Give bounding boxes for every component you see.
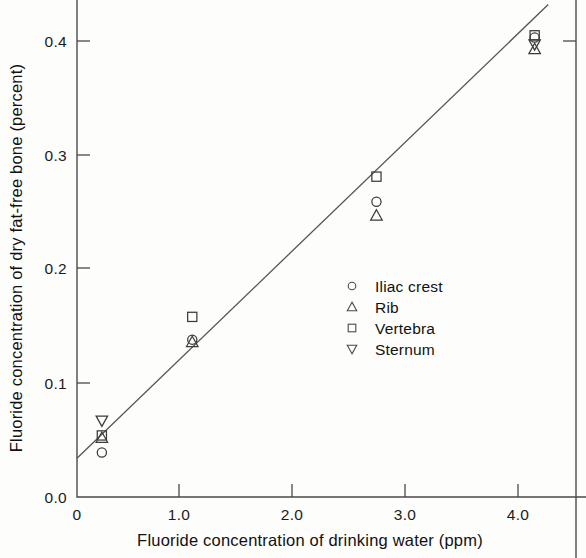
data-point (372, 197, 381, 206)
data-point (530, 33, 539, 42)
y-tick-label-0.0: 0.0 (45, 489, 68, 506)
axis-spines (77, 0, 586, 497)
legend-marker-triangle-up (347, 302, 357, 311)
y-tick-label-0.2: 0.2 (45, 260, 67, 277)
data-point (530, 31, 539, 40)
y-tick-label-0.1: 0.1 (45, 375, 67, 392)
y-tick-label-0.4: 0.4 (45, 33, 68, 50)
series-sternum (96, 40, 540, 427)
legend-label-vertebra: Vertebra (375, 320, 435, 337)
data-markers-layer (96, 31, 540, 457)
legend-label-sternum: Sternum (375, 341, 435, 358)
legend-label-rib: Rib (375, 299, 399, 316)
y-axis-ticks (77, 41, 576, 383)
x-tick-label-1.0: 1.0 (168, 506, 191, 523)
legend-marker-triangle-down (347, 345, 357, 354)
x-tick-label-0: 0 (73, 506, 82, 523)
data-point (188, 312, 197, 321)
legend-marker-square (348, 324, 356, 332)
axes-frame (77, 0, 586, 558)
series-vertebra (97, 31, 539, 440)
x-axis-title: Fluoride concentration of drinking water… (137, 531, 483, 549)
legend-label-iliac-crest: Iliac crest (375, 278, 443, 295)
data-point (96, 416, 108, 426)
data-point (97, 448, 106, 457)
chart-figure: 0.4 0.3 0.2 0.1 0.0 0 1.0 2.0 3.0 4.0 Fl… (0, 0, 586, 558)
data-point (529, 40, 541, 50)
x-tick-label-3.0: 3.0 (394, 506, 417, 523)
y-tick-label-0.3: 0.3 (45, 147, 67, 164)
regression-line (77, 5, 548, 459)
series-rib (96, 43, 540, 442)
series-iliac-crest (97, 33, 539, 457)
scatter-plot-canvas: 0.4 0.3 0.2 0.1 0.0 0 1.0 2.0 3.0 4.0 Fl… (0, 0, 586, 558)
y-axis-title: Fluoride concentration of dry fat-free b… (7, 64, 25, 452)
x-tick-label-4.0: 4.0 (507, 506, 530, 523)
x-tick-label-2.0: 2.0 (281, 506, 304, 523)
data-point (371, 210, 383, 220)
legend: Iliac crestRibVertebraSternum (347, 278, 443, 358)
legend-marker-circle (348, 282, 356, 290)
data-point (529, 43, 541, 53)
x-axis-ticks (179, 484, 518, 497)
